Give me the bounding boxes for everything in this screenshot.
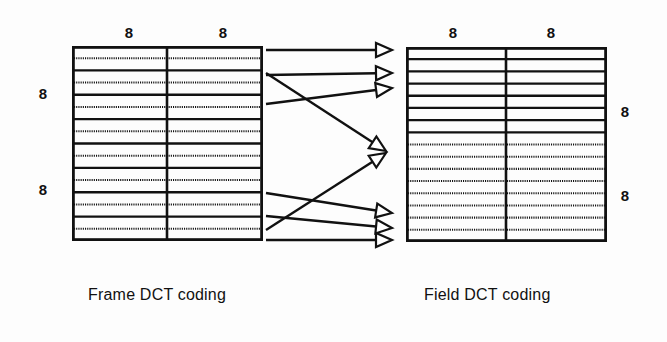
left-block-side-label-1: 8 [32, 86, 54, 101]
right-block-side-label-2: 8 [614, 188, 636, 203]
frame-dct-block [72, 46, 263, 241]
field-dct-block [406, 47, 607, 242]
left-block-caption: Frame DCT coding [88, 286, 226, 304]
right-block-side-label-1: 8 [614, 104, 636, 119]
dct-coding-figure: 8 8 8 8 8 8 8 8 Frame DCT coding Field D… [0, 0, 667, 342]
right-block-top-label-2: 8 [540, 25, 562, 40]
right-block-caption: Field DCT coding [424, 286, 551, 304]
left-block-side-label-2: 8 [32, 182, 54, 197]
left-block-top-label-2: 8 [212, 25, 234, 40]
frame-block-grid [72, 46, 263, 241]
left-block-top-label-1: 8 [118, 25, 140, 40]
right-block-top-label-1: 8 [442, 25, 464, 40]
field-block-grid [406, 47, 607, 242]
